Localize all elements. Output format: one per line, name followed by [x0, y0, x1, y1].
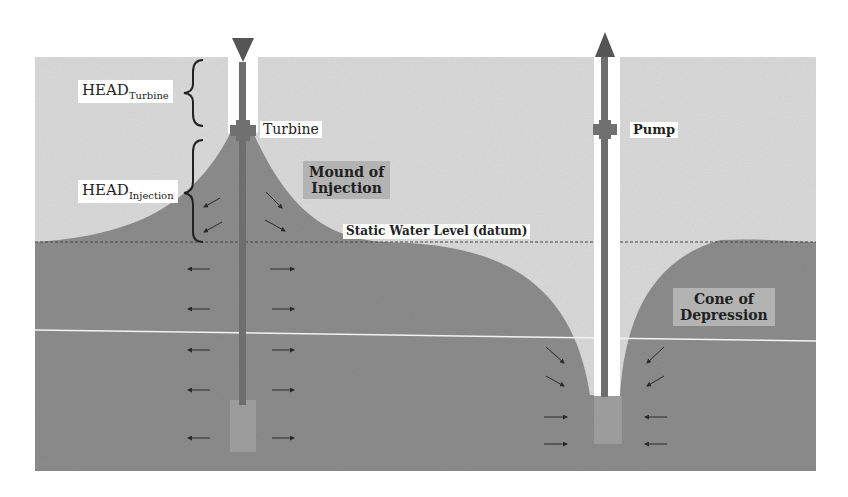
- cone-label-line2: Depression: [680, 307, 768, 323]
- cone-of-depression-label: Cone of Depression: [673, 288, 775, 326]
- mound-label-line1: Mound of: [309, 164, 384, 180]
- pump-label: Pump: [630, 122, 678, 138]
- cone-label-line1: Cone of: [680, 291, 768, 307]
- outflow-arrow-icon: [595, 32, 615, 57]
- injection-well-screen: [230, 400, 256, 452]
- head-injection-sub: Injection: [129, 190, 174, 201]
- injection-well-pipe: [239, 62, 246, 405]
- pumping-well-screen: [594, 396, 622, 444]
- head-turbine-main: HEAD: [82, 81, 129, 99]
- head-turbine-sub: Turbine: [129, 90, 169, 101]
- mound-of-injection-label: Mound of Injection: [303, 161, 390, 199]
- mound-label-line2: Injection: [309, 180, 384, 196]
- head-injection-label: HEADInjection: [78, 180, 178, 203]
- static-water-level-label: Static Water Level (datum): [343, 224, 530, 239]
- groundwater-diagram: [0, 0, 848, 497]
- head-turbine-label: HEADTurbine: [78, 80, 173, 103]
- head-injection-main: HEAD: [82, 181, 129, 199]
- turbine-label: Turbine: [260, 121, 322, 138]
- pumping-well: [593, 32, 622, 444]
- pumping-well-pipe: [601, 52, 608, 397]
